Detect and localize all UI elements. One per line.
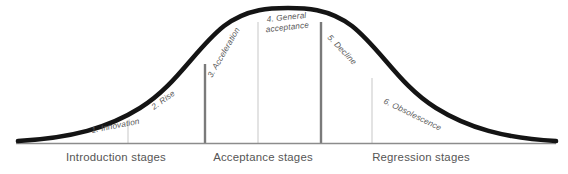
stage-label-decline: 5. Decline xyxy=(326,33,359,67)
axis-label-regression-stages: Regression stages xyxy=(372,151,470,163)
stage-label-acceleration: 3. Acceleration xyxy=(206,26,242,79)
bell-curve-diagram: 1. Innovation 2. Rise 3. Acceleration 4.… xyxy=(0,0,568,174)
stage-label-obsolescence: 6. Obsolescence xyxy=(382,97,443,133)
axis-label-acceptance-stages: Acceptance stages xyxy=(213,151,313,163)
stage-label-obsolescence-text: 6. Obsolescence xyxy=(382,97,443,133)
diagram-canvas: 1. Innovation 2. Rise 3. Acceleration 4.… xyxy=(0,0,568,174)
axis-label-introduction-stages: Introduction stages xyxy=(66,151,166,163)
stage-label-decline-text: 5. Decline xyxy=(326,33,359,67)
stage-label-general-acceptance: 4. General acceptance xyxy=(264,11,309,34)
stage-label-acceleration-text: 3. Acceleration xyxy=(206,26,242,79)
